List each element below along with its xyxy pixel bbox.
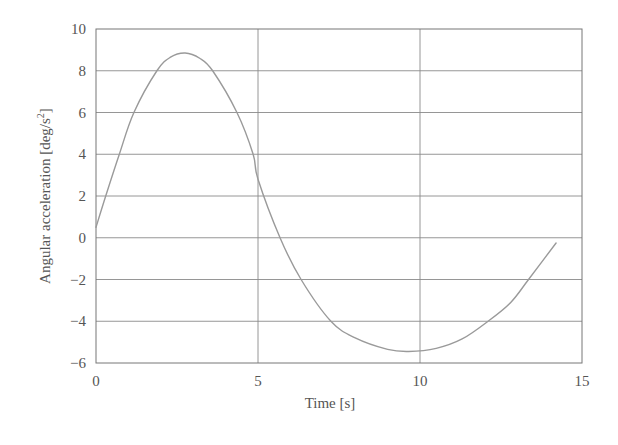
y-tick-label: 6 <box>79 105 87 121</box>
y-tick-label: −6 <box>70 355 86 371</box>
x-tick-label: 10 <box>413 373 428 389</box>
y-tick-label: 2 <box>79 188 87 204</box>
x-tick-label: 0 <box>92 373 100 389</box>
x-axis-tick-labels: 051015 <box>92 373 589 389</box>
x-tick-label: 15 <box>575 373 590 389</box>
y-tick-label: 8 <box>79 63 87 79</box>
y-tick-label: −4 <box>70 313 86 329</box>
y-axis-tick-labels: −6−4−20246810 <box>70 21 86 371</box>
chart: −6−4−20246810 051015 Time [s] Angular ac… <box>0 0 618 445</box>
y-tick-label: 0 <box>79 230 87 246</box>
grid-lines <box>96 29 582 363</box>
y-axis-title-base: Angular acceleration [deg/s <box>37 118 53 284</box>
x-axis-title: Time [s] <box>305 395 356 411</box>
x-tick-label: 5 <box>254 373 262 389</box>
y-tick-label: −2 <box>70 272 86 288</box>
y-tick-label: 10 <box>71 21 86 37</box>
y-tick-label: 4 <box>79 146 87 162</box>
y-axis-title-close: ] <box>37 108 53 113</box>
y-axis-title: Angular acceleration [deg/s2] <box>35 108 53 284</box>
data-line-angular-acceleration <box>96 53 556 352</box>
